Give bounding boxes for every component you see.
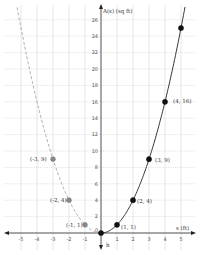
y-tick-label: 12	[92, 131, 98, 137]
y-tick-label: 14	[92, 115, 98, 121]
point-label: (-1, 1)	[66, 222, 83, 228]
chart: -5-4-3-2-1123452468101214161820222426 (1…	[0, 0, 200, 255]
point-label: (1, 1)	[121, 224, 136, 230]
dashed-data-point	[51, 157, 56, 162]
y-tick-label: 6	[95, 181, 98, 187]
y-tick-label: 24	[92, 33, 98, 39]
h-axis-label: h	[106, 242, 110, 248]
y-tick-label: 20	[92, 66, 98, 72]
y-axis-label: A(s) (sq ft)	[102, 8, 132, 15]
origin-label: 0	[95, 227, 98, 233]
solid-data-point	[114, 222, 119, 227]
y-tick-label: 22	[92, 49, 98, 55]
y-tick-label: 10	[92, 148, 98, 154]
axes: -5-4-3-2-1123452468101214161820222426	[4, 4, 196, 250]
solid-data-point	[130, 198, 135, 203]
point-label: (-2, 4)	[50, 197, 67, 203]
solid-data-point	[98, 230, 103, 235]
x-tick-label: 5	[179, 236, 182, 242]
solid-data-point	[146, 157, 151, 162]
point-label: (-3, 9)	[30, 156, 47, 162]
solid-data-point	[178, 25, 183, 30]
y-tick-label: 16	[92, 99, 98, 105]
dashed-data-point	[83, 222, 88, 227]
y-tick-label: 18	[92, 82, 98, 88]
x-tick-label: -5	[19, 236, 24, 242]
x-tick-label: 2	[131, 236, 134, 242]
point-label: (4, 16)	[173, 98, 191, 104]
grid	[4, 5, 196, 250]
y-tick-label: 8	[95, 164, 98, 170]
x-axis-left-arrow-icon	[4, 231, 9, 235]
x-tick-label: 4	[163, 236, 166, 242]
point-label: (2, 4)	[137, 198, 152, 204]
y-tick-label: 26	[92, 17, 98, 23]
x-tick-label: 1	[115, 236, 118, 242]
x-tick-label: 3	[147, 236, 150, 242]
x-tick-label: -3	[51, 236, 56, 242]
y-axis-down-arrow-icon	[99, 245, 103, 250]
solid-data-point	[162, 99, 167, 104]
dashed-data-point	[67, 198, 72, 203]
x-tick-label: -4	[35, 236, 40, 242]
y-tick-label: 4	[95, 197, 98, 203]
point-label: (3, 9)	[155, 157, 170, 163]
y-tick-label: 2	[95, 213, 98, 219]
x-axis-right-arrow-icon	[191, 231, 196, 235]
x-tick-label: -2	[67, 236, 72, 242]
x-tick-label: -1	[83, 236, 88, 242]
x-axis-label: s (ft)	[176, 225, 189, 231]
